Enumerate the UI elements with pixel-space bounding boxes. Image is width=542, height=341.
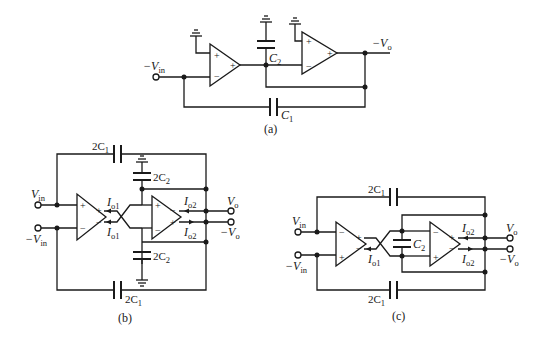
svg-text:+: + — [214, 50, 220, 61]
svg-text:−: − — [433, 227, 439, 238]
arrow-icon — [106, 220, 111, 225]
2c1-top-label: 2C1 — [368, 183, 385, 198]
2c1-bottom-label: 2C1 — [368, 293, 385, 308]
svg-text:−: − — [80, 223, 86, 234]
svg-text:−: − — [214, 71, 220, 82]
io1-bottom-label: Io1 — [106, 225, 120, 241]
2c2-top-label: 2C2 — [153, 171, 170, 186]
arrow-icon — [468, 247, 473, 252]
ground-icon — [136, 280, 148, 286]
ground-icon — [289, 18, 301, 24]
svg-text:+: + — [339, 252, 345, 263]
caption-b: (b) — [118, 311, 132, 325]
vin-label: Vin — [31, 187, 46, 203]
svg-text:+: + — [327, 48, 333, 59]
io2-top-label: Io2 — [183, 194, 197, 210]
neg-vin-terminal — [295, 252, 301, 258]
io2-top-label: Io2 — [461, 221, 475, 237]
vo-terminal — [507, 235, 513, 241]
panel-a: + − + + − + — [143, 16, 392, 136]
svg-text:+: + — [80, 200, 86, 211]
panel-c: − + + − − + + − — [285, 183, 519, 323]
vo-label: Vo — [506, 221, 518, 237]
svg-text:+: + — [449, 232, 455, 243]
arrow-icon — [366, 247, 371, 252]
svg-text:−: − — [339, 227, 345, 238]
2c2-bottom-label: 2C2 — [153, 250, 170, 265]
io2-bottom-label: Io2 — [461, 252, 475, 268]
c2-label: C2 — [269, 51, 281, 67]
ground-icon — [190, 30, 202, 36]
2c1-bottom-label: 2C1 — [125, 293, 142, 308]
svg-text:−: − — [449, 243, 455, 254]
io1-label: Io1 — [367, 252, 381, 268]
neg-vin-label: −Vin — [285, 259, 308, 275]
neg-vo-label: −Vo — [499, 252, 519, 268]
caption-a: (a) — [264, 122, 277, 136]
caption-c: (c) — [392, 309, 405, 323]
svg-text:−: − — [96, 217, 102, 228]
ground-icon — [260, 16, 272, 22]
input-label: −Vin — [143, 59, 166, 75]
vin-label: Vin — [292, 214, 307, 230]
svg-text:+: + — [96, 205, 102, 216]
arrow-icon — [189, 220, 194, 225]
neg-vin-terminal — [35, 225, 41, 231]
2c1-top-label: 2C1 — [92, 140, 109, 155]
svg-text:−: − — [170, 205, 176, 216]
io1-top-label: Io1 — [106, 195, 120, 211]
ground-icon — [136, 156, 148, 162]
svg-text:−: − — [356, 243, 362, 254]
neg-vo-label: −Vo — [220, 225, 240, 241]
c1-label: C1 — [281, 108, 293, 124]
svg-text:−: − — [155, 225, 161, 236]
panel-b: + − + − — [25, 140, 240, 325]
neg-vin-label: −Vin — [25, 232, 48, 248]
svg-text:+: + — [230, 60, 236, 71]
svg-text:+: + — [433, 252, 439, 263]
io2-bottom-label: Io2 — [183, 225, 197, 241]
svg-text:+: + — [306, 36, 312, 47]
circuit-figure: + − + + − + — [0, 0, 542, 341]
svg-text:+: + — [356, 232, 362, 243]
vo-label: Vo — [227, 194, 239, 210]
output-label: −Vo — [372, 36, 392, 52]
svg-text:+: + — [170, 217, 176, 228]
svg-text:−: − — [306, 61, 312, 72]
svg-text:+: + — [155, 200, 161, 211]
vo-terminal — [228, 208, 234, 214]
c2-label: C2 — [413, 237, 425, 253]
